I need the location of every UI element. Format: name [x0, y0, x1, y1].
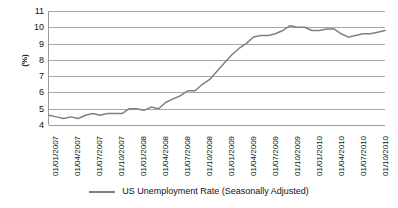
y-axis-tick-label: 8: [22, 55, 44, 64]
x-axis-tick-label: 01/07/2008: [184, 136, 192, 176]
y-axis-tick-labels: 1110987654: [22, 11, 44, 125]
unemployment-rate-line-chart: (%) 1110987654 01/01/200701/04/200701/07…: [0, 0, 398, 208]
x-axis-tick-label: 01/10/2007: [118, 136, 126, 176]
x-axis-tick-label: 01/10/2008: [206, 136, 214, 176]
x-axis-tick-labels: 01/01/200701/04/200701/07/200701/10/2007…: [48, 126, 385, 178]
y-axis-tick-label: 7: [22, 72, 44, 81]
y-axis-tick-label: 5: [22, 104, 44, 113]
x-axis-tick-label: 01/01/2010: [316, 136, 324, 176]
x-axis-tick-label: 01/04/2010: [338, 136, 346, 176]
y-axis-tick-label: 4: [22, 121, 44, 130]
x-axis-tick-label: 01/04/2007: [74, 136, 82, 176]
series-line-us-unemployment-rate: [49, 11, 385, 125]
y-axis-tick-label: 6: [22, 88, 44, 97]
x-axis-tick-label: 01/10/2010: [382, 136, 390, 176]
y-axis-tick-label: 9: [22, 39, 44, 48]
x-axis-tick-label: 01/10/2009: [294, 136, 302, 176]
x-axis-tick-label: 01/07/2007: [96, 136, 104, 176]
x-axis-tick-label: 01/01/2008: [140, 136, 148, 176]
x-axis-tick-label: 01/07/2009: [272, 136, 280, 176]
y-axis-tick-label: 10: [22, 23, 44, 32]
legend-label: US Unemployment Rate (Seasonally Adjuste…: [122, 186, 309, 197]
series-polyline: [49, 26, 385, 119]
chart-legend: US Unemployment Rate (Seasonally Adjuste…: [0, 186, 398, 197]
legend-line-swatch: [89, 191, 115, 193]
y-axis-tick-label: 11: [22, 7, 44, 16]
x-axis-tick-label: 01/07/2010: [360, 136, 368, 176]
x-axis-tick-label: 01/01/2007: [52, 136, 60, 176]
x-axis-tick-label: 01/04/2009: [250, 136, 258, 176]
x-axis-tick-label: 01/01/2009: [228, 136, 236, 176]
plot-area: [48, 11, 385, 125]
x-axis-tick-label: 01/04/2008: [162, 136, 170, 176]
